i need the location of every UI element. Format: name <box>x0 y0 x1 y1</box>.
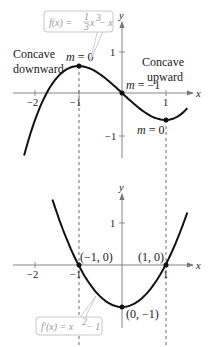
derivative-label-box: f′(x) = x 2 − 1 <box>36 296 102 335</box>
svg-text:− x: − x <box>99 17 113 28</box>
svg-text:− 1: − 1 <box>86 321 100 332</box>
root-right-point <box>164 263 169 268</box>
bottom-x-axis-label: x <box>195 260 201 271</box>
inflection-point <box>120 91 125 96</box>
concave-upward-label: Concave upward <box>142 55 187 84</box>
top-tick-x-1: 1 <box>163 97 168 108</box>
svg-text:3: 3 <box>83 21 89 32</box>
svg-text:f(x) =: f(x) = <box>49 17 72 29</box>
svg-text:f′(x) = x: f′(x) = x <box>41 321 74 333</box>
figure-canvas: x y −2 −1 1 1 −1 m = 0 m = −1 m = 0 Conc… <box>0 0 218 347</box>
root-left-label: (−1, 0) <box>80 250 113 264</box>
parabola-curve <box>52 200 187 308</box>
bottom-tick-y-1: 1 <box>110 218 115 229</box>
top-graph: x y −2 −1 1 1 −1 m = 0 m = −1 m = 0 Conc… <box>13 10 201 347</box>
vertex-point <box>120 305 125 310</box>
vertex-label: (0, −1) <box>126 307 159 321</box>
concave-downward-label: Concave downward <box>13 47 64 76</box>
root-right-label: (1, 0) <box>138 250 164 264</box>
bottom-graph: x y −2 −1 1 1 (−1, 0) (1, 0) (0, −1) f′(… <box>13 182 201 335</box>
svg-text:x: x <box>89 17 95 28</box>
top-tick-x-minus1: −1 <box>70 97 81 108</box>
local-max-point <box>77 64 82 69</box>
top-x-axis-label: x <box>195 88 201 99</box>
top-y-axis-label: y <box>118 10 124 21</box>
bottom-tick-x-1: 1 <box>163 269 168 280</box>
bottom-y-axis-label: y <box>118 182 124 193</box>
top-tick-x-minus2: −2 <box>27 97 38 108</box>
m-max-label: m = 0 <box>66 50 93 64</box>
m-min-label: m = 0 <box>137 123 164 137</box>
bottom-tick-x-minus2: −2 <box>27 269 38 280</box>
local-min-point <box>164 118 169 123</box>
top-tick-y-minus1: −1 <box>105 131 116 142</box>
top-tick-y-1: 1 <box>110 47 115 58</box>
bottom-tick-x-minus1: −1 <box>70 269 81 280</box>
